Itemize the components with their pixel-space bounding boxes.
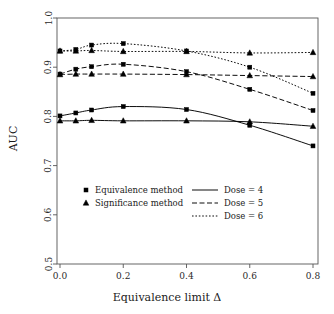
- y-axis-tick-label: 0.5: [44, 257, 54, 272]
- legend-label-dose-5: Dose = 5: [224, 198, 263, 208]
- data-point-square: [90, 43, 94, 47]
- series-5-equivalence: [58, 62, 315, 112]
- data-point-square: [311, 91, 315, 95]
- legend-label-dose-6: Dose = 6: [224, 211, 263, 221]
- y-axis-label: AUC: [7, 109, 20, 169]
- series-4-significance: [57, 117, 316, 128]
- x-axis-tick-label: 0.6: [243, 271, 258, 281]
- y-axis-tick-label: 0.6: [44, 207, 54, 222]
- y-axis-tick-label: 0.8: [44, 109, 54, 124]
- x-axis-tick-label: 0.4: [179, 271, 194, 281]
- legend-label-equivalence: Equivalence method: [95, 185, 184, 195]
- data-series: [57, 42, 316, 148]
- plot-border: [57, 18, 318, 264]
- data-point-square: [121, 105, 125, 109]
- data-point-square: [84, 188, 88, 192]
- y-axis-tick-label: 1.0: [44, 11, 54, 26]
- series-line: [60, 107, 313, 146]
- x-axis-tick-label: 0.8: [306, 271, 321, 281]
- x-axis-tick-label: 0.2: [116, 271, 130, 281]
- chart-figure: 0.50.60.70.80.91.00.00.20.40.60.8 Equiva…: [0, 0, 334, 314]
- data-point-square: [121, 42, 125, 46]
- series-6-significance: [57, 47, 316, 55]
- x-axis-tick-label: 0.0: [53, 271, 68, 281]
- data-point-square: [311, 108, 315, 112]
- series-4-equivalence: [58, 105, 315, 148]
- data-point-square: [311, 144, 315, 148]
- data-point-triangle: [310, 49, 316, 54]
- data-point-square: [185, 108, 189, 112]
- axes: 0.50.60.70.80.91.00.00.20.40.60.8: [44, 11, 321, 281]
- data-point-square: [248, 65, 252, 69]
- y-axis-tick-label: 0.9: [44, 60, 54, 75]
- data-point-square: [121, 62, 125, 66]
- data-point-square: [248, 87, 252, 91]
- auc-line-chart: 0.50.60.70.80.91.00.00.20.40.60.8 Equiva…: [0, 0, 334, 314]
- x-axis-label: Equivalence limit Δ: [0, 291, 334, 304]
- y-axis-tick-label: 0.7: [44, 158, 54, 173]
- data-point-triangle: [83, 200, 89, 205]
- data-point-triangle: [89, 47, 95, 52]
- chart-legend: Equivalence methodSignificance methodDos…: [83, 185, 263, 221]
- data-point-square: [90, 65, 94, 69]
- data-point-square: [74, 111, 78, 115]
- legend-label-significance: Significance method: [95, 198, 184, 208]
- legend-label-dose-4: Dose = 4: [224, 185, 263, 195]
- data-point-square: [90, 108, 94, 112]
